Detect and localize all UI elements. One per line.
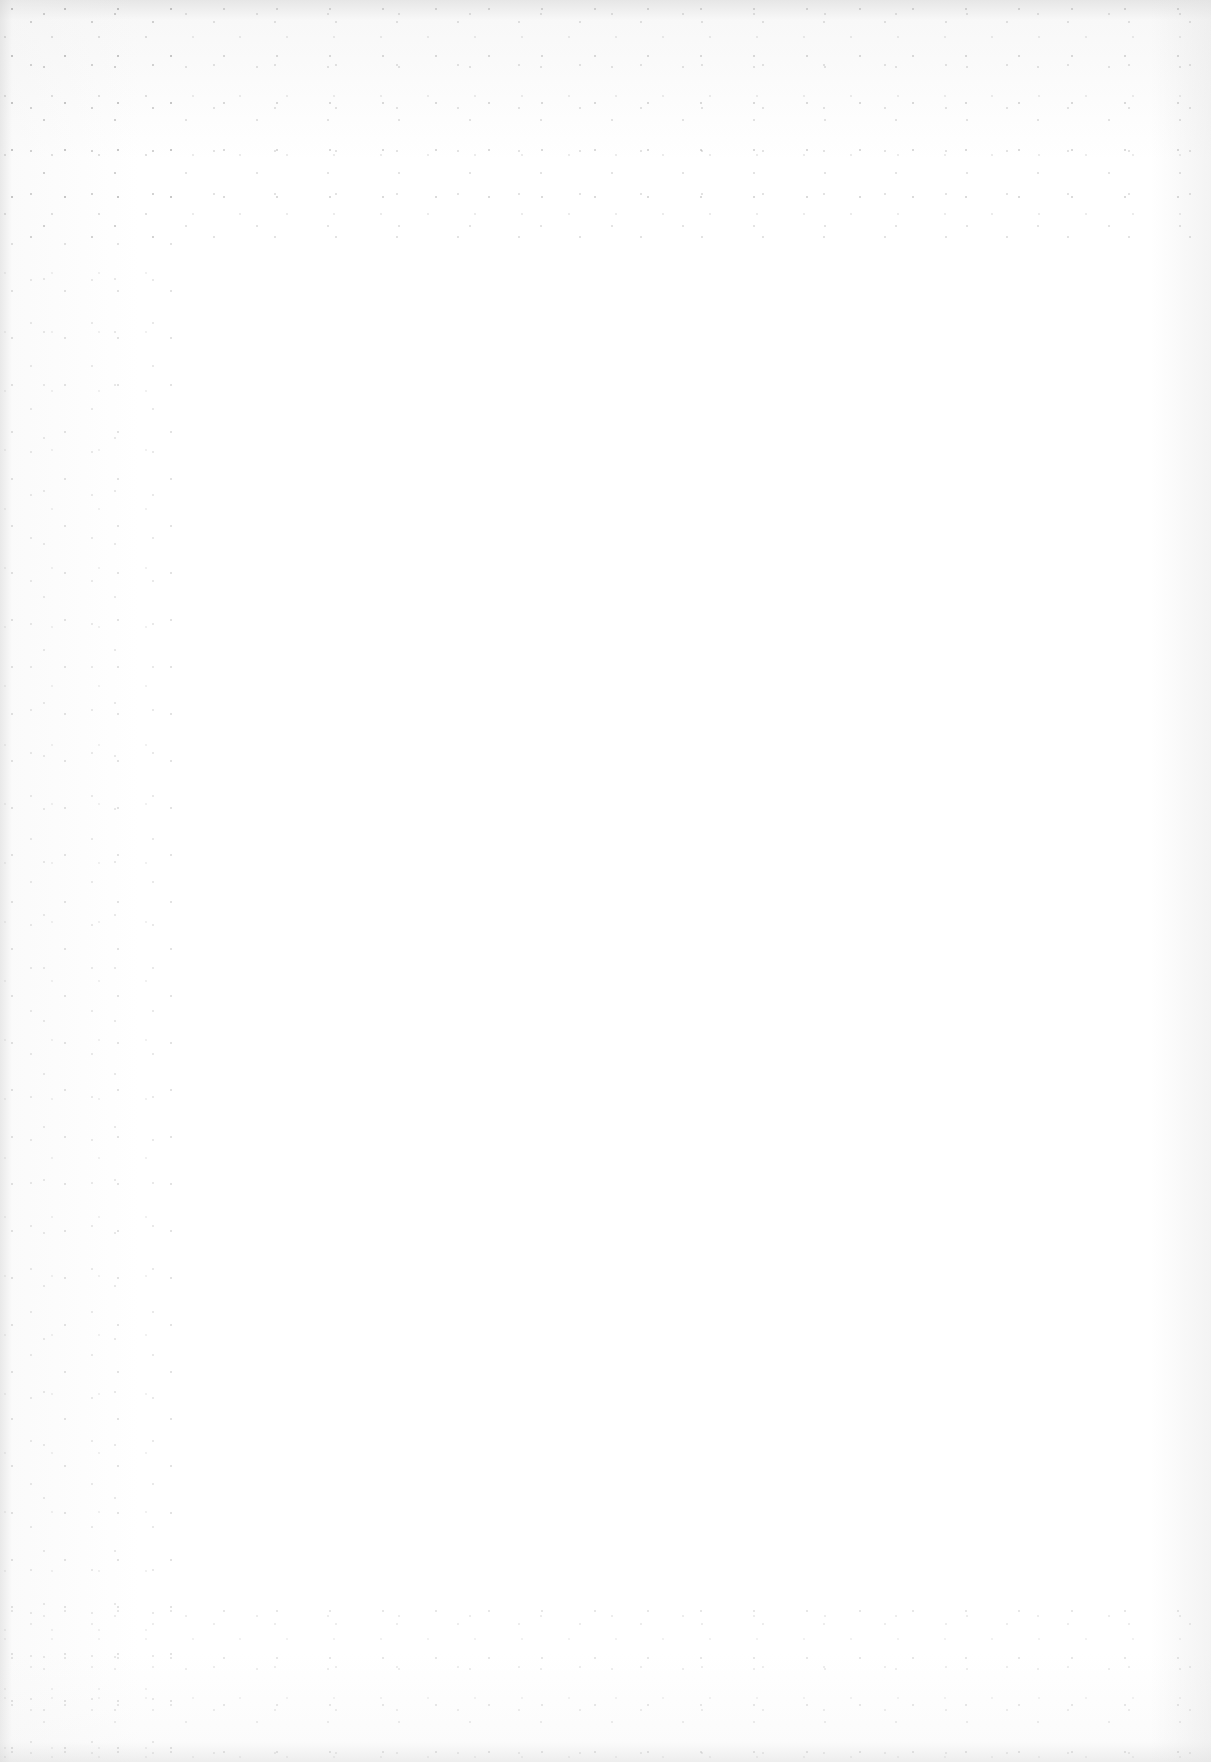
scan-shading-right [1151, 0, 1211, 1762]
blank-page [0, 0, 1211, 1762]
speckle-noise-top [0, 0, 1211, 240]
speckle-noise-left [0, 0, 180, 1762]
speckle-noise-bottom [0, 1602, 1211, 1762]
